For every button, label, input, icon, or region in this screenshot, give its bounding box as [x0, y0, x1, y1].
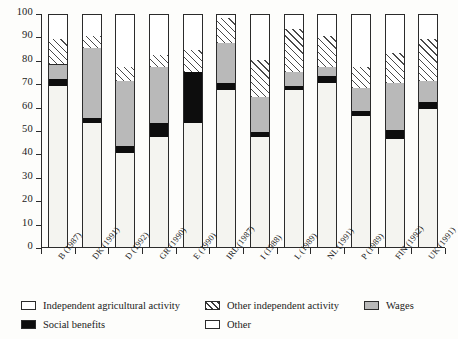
bar-segment-indep-agri	[318, 83, 336, 247]
bar-slot	[209, 14, 243, 248]
legend-item-other: Other	[205, 319, 251, 330]
bar-slot	[378, 14, 412, 248]
y-axis: 0102030405060708090100	[0, 14, 41, 248]
legend-item-social: Social benefits	[21, 319, 105, 330]
stacked-bar[interactable]	[418, 14, 438, 248]
x-label-slot: IRL (1987)	[209, 253, 243, 297]
stacked-bar[interactable]	[385, 14, 405, 248]
bar-segment-wages	[251, 96, 269, 132]
bar-slot	[277, 14, 311, 248]
x-label-slot: I (1988)	[243, 253, 277, 297]
legend-label-other-indep: Other independent activity	[227, 300, 339, 311]
bar-slot	[411, 14, 445, 248]
bar-slot	[75, 14, 109, 248]
bar-slot	[142, 14, 176, 248]
bar-segment-indep-agri	[386, 139, 404, 247]
bar-segment-social	[419, 101, 437, 109]
bar-segment-other	[251, 14, 269, 60]
bar-segment-other	[217, 14, 235, 18]
x-label-slot: FIN (1992)	[378, 253, 412, 297]
bar-segment-wages	[318, 66, 336, 76]
x-label-slot: DK (1991)	[75, 253, 109, 297]
bar-segment-indep-agri	[285, 90, 303, 247]
bar-segment-social	[116, 145, 134, 153]
x-label-slot: B (1987)	[41, 253, 75, 297]
bar-segment-other-indep	[352, 66, 370, 88]
y-axis-tick-label: 80	[22, 53, 33, 64]
bar-segment-wages	[285, 71, 303, 86]
bar-segment-indep-agri	[83, 123, 101, 247]
legend-label-social: Social benefits	[43, 319, 105, 330]
bar-segment-other-indep	[419, 38, 437, 81]
bar-segment-other	[352, 14, 370, 67]
bar-segment-other-indep	[49, 38, 67, 65]
legend-swatch-indep-agri-icon	[21, 301, 36, 310]
y-axis-tick-label: 10	[22, 217, 33, 228]
bar-segment-social	[150, 122, 168, 137]
stacked-bar[interactable]	[317, 14, 337, 248]
legend-swatch-social-icon	[21, 320, 36, 329]
stacked-bar[interactable]	[284, 14, 304, 248]
bar-segment-social	[184, 71, 202, 123]
bar-segment-other-indep	[318, 35, 336, 66]
legend-swatch-other-icon	[205, 320, 220, 329]
bar-segment-indep-agri	[184, 123, 202, 247]
bar-segment-wages	[150, 66, 168, 123]
bar-segment-wages	[352, 87, 370, 111]
bar-segment-wages	[49, 64, 67, 79]
bar-segment-indep-agri	[150, 137, 168, 247]
stacked-bar[interactable]	[183, 14, 203, 248]
legend-item-other-indep: Other independent activity	[205, 300, 339, 311]
y-axis-tick-label: 40	[22, 146, 33, 157]
x-label-slot: L (1989)	[277, 253, 311, 297]
stacked-bar[interactable]	[351, 14, 371, 248]
legend-label-other: Other	[227, 319, 251, 330]
bar-segment-indep-agri	[352, 116, 370, 247]
bar-segment-other-indep	[150, 54, 168, 67]
legend-label-wages: Wages	[386, 300, 414, 311]
y-axis-tick-label: 50	[22, 123, 33, 134]
x-label-slot: P (1989)	[344, 253, 378, 297]
bar-segment-other	[83, 14, 101, 36]
bar-segment-other	[285, 14, 303, 29]
bar-segment-other-indep	[386, 52, 404, 83]
bar-segment-social	[386, 129, 404, 139]
y-axis-tick-label: 0	[28, 240, 33, 251]
bar-slot	[310, 14, 344, 248]
bar-segment-wages	[116, 80, 134, 147]
bar-slot	[344, 14, 378, 248]
y-axis-tick-label: 90	[22, 29, 33, 40]
legend-item-indep-agri: Independent agricultural activity	[21, 300, 180, 311]
stacked-bar[interactable]	[82, 14, 102, 248]
stacked-bar[interactable]	[216, 14, 236, 248]
x-label-slot: D (1992)	[108, 253, 142, 297]
bar-segment-other-indep	[116, 66, 134, 81]
bar-segment-social	[49, 78, 67, 86]
bar-segment-other	[386, 14, 404, 53]
bar-segment-other	[184, 14, 202, 50]
legend-label-indep-agri: Independent agricultural activity	[43, 300, 180, 311]
bar-segment-other-indep	[184, 49, 202, 71]
bar-slot	[41, 14, 75, 248]
y-axis-tick-label: 70	[22, 76, 33, 87]
bar-segment-other	[116, 14, 134, 67]
legend-item-wages: Wages	[364, 300, 414, 311]
bar-slot	[108, 14, 142, 248]
bar-slot	[243, 14, 277, 248]
stacked-bar[interactable]	[48, 14, 68, 248]
x-label-slot: NL (1991)	[310, 253, 344, 297]
stacked-bar[interactable]	[149, 14, 169, 248]
x-label-slot: GR (1990)	[142, 253, 176, 297]
x-label-slot: UK (1991)	[411, 253, 445, 297]
bar-segment-wages	[83, 47, 101, 118]
x-axis-tick-mark	[445, 248, 446, 254]
y-axis-tick-label: 60	[22, 100, 33, 111]
stacked-bar[interactable]	[115, 14, 135, 248]
legend-swatch-wages-icon	[364, 301, 379, 310]
bar-segment-social	[318, 75, 336, 83]
bar-segment-other-indep	[251, 59, 269, 97]
stacked-bar[interactable]	[250, 14, 270, 248]
bar-slot	[176, 14, 210, 248]
bar-segment-wages	[419, 80, 437, 102]
